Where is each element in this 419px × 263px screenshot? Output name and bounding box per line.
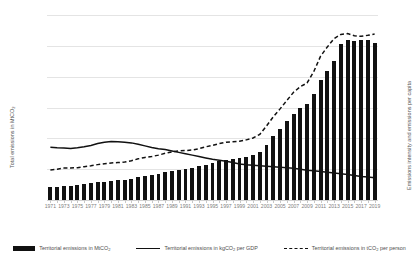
legend-label-per-capita: Territorial emissions in tCO2 per person	[312, 245, 406, 251]
x-axis-tick-label: 2017	[355, 203, 366, 209]
x-axis-tick-label: 1975	[72, 203, 83, 209]
x-axis-tick-label: 2003	[261, 203, 272, 209]
line-series-group	[47, 15, 378, 200]
x-axis-tick-label: 1987	[153, 203, 164, 209]
x-axis-tick-label: 1971	[45, 203, 56, 209]
legend-dashed-swatch-icon	[284, 248, 308, 249]
x-axis-tick-label: 1977	[85, 203, 96, 209]
x-axis-tick-label: 1999	[234, 203, 245, 209]
chart-legend: Territorial emissions in MtCO2 Territori…	[0, 240, 419, 256]
x-axis-tick-label: 1985	[139, 203, 150, 209]
x-axis-tick-label: 2015	[342, 203, 353, 209]
x-axis-tick-label: 1997	[220, 203, 231, 209]
legend-item-bars: Territorial emissions in MtCO2	[13, 245, 110, 251]
legend-label-bars: Territorial emissions in MtCO2	[39, 245, 110, 251]
x-axis-tick-label: 2007	[288, 203, 299, 209]
legend-item-intensity: Territorial emissions in kgCO2 per GDP	[136, 245, 257, 251]
y-axis-right-title: Emissions intensity and emissions per ca…	[406, 81, 412, 190]
line-series-per-capita	[50, 34, 374, 170]
plot-area: 020004000600080001000012000 012345678	[47, 15, 378, 200]
x-axis-labels: 1971197319751977197919811983198519871989…	[47, 203, 378, 217]
x-axis-tick-label: 1983	[126, 203, 137, 209]
x-axis-tick-label: 2009	[301, 203, 312, 209]
x-axis-tick-label: 2019	[369, 203, 380, 209]
legend-item-per-capita: Territorial emissions in tCO2 per person	[284, 245, 406, 251]
emissions-combo-chart: Total emissions in MtCO2 Emissions inten…	[0, 0, 419, 263]
y-axis-left-title: Total emissions in MtCO2	[9, 106, 15, 168]
x-axis-tick-label: 1995	[207, 203, 218, 209]
x-axis-tick-label: 2013	[328, 203, 339, 209]
x-axis-tick-label: 1993	[193, 203, 204, 209]
x-axis-tick-label: 1989	[166, 203, 177, 209]
x-axis-tick-label: 2011	[315, 203, 326, 209]
legend-line-swatch-icon	[136, 248, 160, 249]
x-axis-tick-label: 1981	[112, 203, 123, 209]
legend-label-intensity: Territorial emissions in kgCO2 per GDP	[164, 245, 257, 251]
line-series-intensity	[50, 141, 374, 177]
x-axis-tick-label: 2005	[274, 203, 285, 209]
x-axis-tick-label: 1979	[99, 203, 110, 209]
x-axis-tick-label: 1973	[58, 203, 69, 209]
x-axis-tick-label: 1991	[180, 203, 191, 209]
x-axis-tick-label: 2001	[247, 203, 258, 209]
legend-bar-swatch-icon	[13, 246, 35, 251]
